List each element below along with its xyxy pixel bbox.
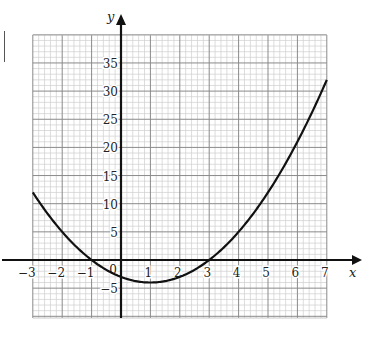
y-tick-label: 10 [103,198,118,212]
x-tick-label: 5 [262,266,270,280]
y-tick-label: 30 [103,85,118,99]
y-tick-label: −5 [100,282,118,296]
x-tick-label: 3 [203,266,211,280]
y-tick-label: 15 [103,170,118,184]
x-tick-label: 7 [321,266,329,280]
x-tick-label: −3 [18,266,36,280]
x-tick-label: 1 [145,266,153,280]
y-tick-label: 5 [110,226,118,240]
y-axis-label: y [106,9,115,24]
parabola-graph: −3−2−101234567−55101520253035 x y [0,0,378,337]
x-tick-label: −2 [47,266,65,280]
y-axis-arrow-icon [116,14,126,25]
y-tick-label: 25 [103,113,118,127]
x-tick-label: −1 [77,266,95,280]
y-tick-label: 20 [103,141,118,155]
x-axis-label: x [349,265,357,280]
y-tick-label: 35 [103,57,118,71]
x-axis-arrow-icon [352,255,362,265]
x-tick-label: 4 [233,266,241,280]
x-tick-label: 6 [292,266,300,280]
